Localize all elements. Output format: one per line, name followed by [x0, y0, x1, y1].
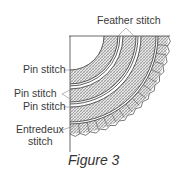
entredeux-label-line1: Entredeux	[16, 124, 64, 135]
entredeux-label-line2: stitch	[28, 136, 53, 147]
feather-stitch-leader	[118, 28, 134, 36]
pin-stitch-label-1: Pin stitch	[23, 64, 66, 75]
figure-caption: Figure 3	[68, 152, 119, 168]
pin-stitch-label-3: Pin stitch	[23, 101, 66, 112]
feather-stitch-label: Feather stitch	[97, 15, 161, 26]
pin-stitch-label-2: Pin stitch	[14, 88, 57, 99]
